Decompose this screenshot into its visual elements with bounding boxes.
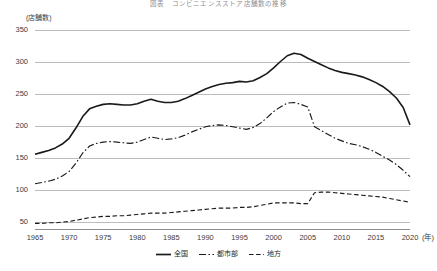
chart-legend: 全国都市部地方: [0, 250, 437, 258]
gridlines: [35, 31, 410, 223]
legend-swatch-solid: [156, 251, 171, 258]
x-tick-label: 2015: [359, 234, 393, 242]
y-tick-label: 350: [2, 26, 28, 34]
x-tick-label: 1975: [86, 234, 120, 242]
x-tick-label: 1970: [52, 234, 86, 242]
series-lines: [35, 53, 410, 223]
x-tick-label: 1985: [154, 234, 188, 242]
y-tick-label: 50: [2, 218, 28, 226]
legend-label: 地方: [267, 250, 281, 258]
x-tick-label: 1990: [188, 234, 222, 242]
legend-label: 都市部: [217, 250, 238, 258]
plot-area: [0, 0, 437, 271]
x-tick-label: 2000: [257, 234, 291, 242]
legend-swatch-dashed: [249, 251, 264, 258]
series-line-都市部: [35, 102, 410, 183]
legend-item-都市部: 都市部: [199, 250, 238, 258]
legend-label: 全国: [174, 250, 188, 258]
legend-item-全国: 全国: [156, 250, 188, 258]
x-tick-label: 2010: [325, 234, 359, 242]
series-line-全国: [35, 53, 410, 154]
y-tick-label: 150: [2, 154, 28, 162]
x-axis-unit-label: (年): [422, 234, 434, 242]
y-tick-label: 100: [2, 186, 28, 194]
legend-swatch-dashdot: [199, 251, 214, 258]
legend-item-地方: 地方: [249, 250, 281, 258]
x-tick-label: 1995: [223, 234, 257, 242]
chart-figure: 図表 コンビニエンスストア店舗数の推移 (店舗数) 35030025020015…: [0, 0, 437, 271]
x-tick-label: 2005: [291, 234, 325, 242]
x-tick-label: 1965: [18, 234, 52, 242]
y-tick-label: 300: [2, 58, 28, 66]
x-tick-label: 1980: [120, 234, 154, 242]
y-tick-label: 250: [2, 90, 28, 98]
y-tick-label: 200: [2, 122, 28, 130]
series-line-地方: [35, 192, 410, 223]
